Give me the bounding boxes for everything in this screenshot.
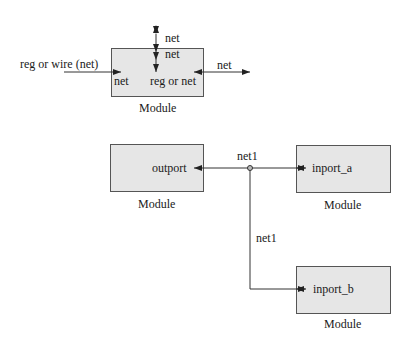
outport-label: outport — [152, 162, 187, 174]
inport-b-label: inport_b — [313, 283, 354, 295]
output-inside-label: reg or net — [150, 75, 196, 87]
sink-module-a-label: Module — [324, 199, 361, 211]
inout-inside-label: net — [165, 48, 180, 60]
input-inside-label: net — [114, 75, 129, 87]
input-outside-label: reg or wire (net) — [20, 58, 98, 70]
output-outside-label: net — [217, 59, 232, 71]
net1-horizontal-label: net1 — [237, 150, 258, 162]
junction-dot — [248, 166, 253, 171]
sink-module-b-label: Module — [324, 318, 361, 330]
inport-a-label: inport_a — [312, 162, 352, 174]
net1-vertical-label: net1 — [256, 232, 277, 244]
top-module-label: Module — [139, 102, 176, 114]
inout-outside-label: net — [165, 32, 180, 44]
source-module-label: Module — [138, 198, 175, 210]
